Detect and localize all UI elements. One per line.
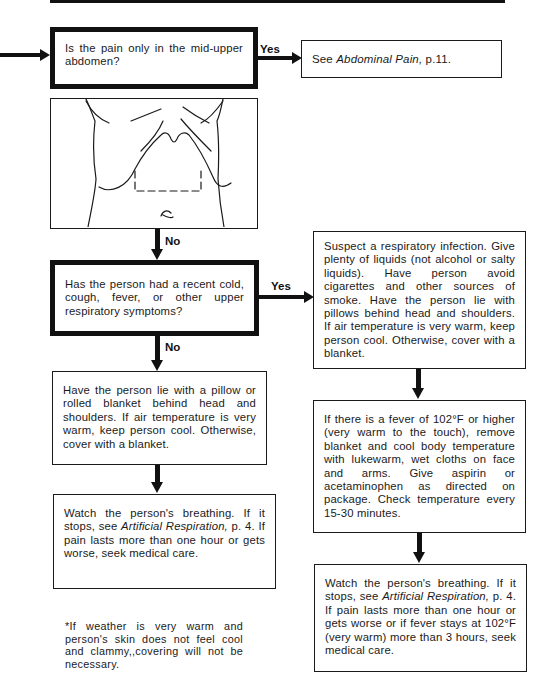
yes-arrow-1-line <box>258 56 294 60</box>
question-2-text: Has the person had a recent cold, cough,… <box>65 278 244 318</box>
yes-result-1-box: See Abdominal Pain, p.11. <box>301 40 502 78</box>
footnote: *If weather is very warm and person's sk… <box>65 620 243 670</box>
abdomen-illustration-box <box>50 98 258 229</box>
right-arrow-2-line <box>417 533 422 553</box>
question-1-box: Is the pain only in the mid-upper abdome… <box>50 27 258 89</box>
lie-down-pillow-text: Have the person lie with a pillow or rol… <box>63 384 256 451</box>
watch-breathing-text: Watch the person's breathing. If it stop… <box>64 507 265 561</box>
yes-result-1-prefix: See <box>312 53 336 65</box>
abdominal-pain-reference: Abdominal Pain, <box>336 53 422 65</box>
no-label-1: No <box>165 235 180 247</box>
yes-result-1-suffix: p.11. <box>422 53 451 65</box>
right-arrow-1-line <box>416 369 421 389</box>
respiratory-infection-text: Suspect a respiratory infection. Give pl… <box>324 240 515 361</box>
no-arrow-1-head-icon <box>151 249 163 260</box>
yes-arrow-2-line <box>259 295 306 299</box>
artificial-respiration-reference-1: Artificial Respiration, <box>121 520 228 532</box>
no-arrow-1-line <box>155 229 160 251</box>
artificial-respiration-reference-2: Artificial Respiration, <box>382 590 489 602</box>
left-arrow-1-head-icon <box>151 482 163 493</box>
yes-label-2: Yes <box>271 280 291 292</box>
lie-down-pillow-box: Have the person lie with a pillow or rol… <box>52 371 267 465</box>
fever-instructions-text: If there is a fever of 102°F or higher (… <box>324 413 515 520</box>
no-arrow-2-head-icon <box>151 360 163 371</box>
respiratory-infection-box: Suspect a respiratory infection. Give pl… <box>313 231 526 369</box>
watch-breathing-fever-box: Watch the person's breathing. If it stop… <box>314 564 527 672</box>
abdomen-outline-icon <box>51 99 256 227</box>
right-arrow-1-head-icon <box>412 388 424 399</box>
question-1-text: Is the pain only in the mid-upper abdome… <box>65 42 243 69</box>
entry-arrow-head-icon <box>40 49 50 61</box>
top-rule <box>50 0 505 3</box>
no-arrow-2-line <box>155 336 160 361</box>
question-2-box: Has the person had a recent cold, cough,… <box>50 260 259 336</box>
watch-breathing-box: Watch the person's breathing. If it stop… <box>53 494 276 589</box>
entry-arrow-line <box>0 53 42 57</box>
watch-breathing-fever-text: Watch the person's breathing. If it stop… <box>325 577 516 657</box>
no-label-2: No <box>165 341 180 353</box>
fever-instructions-box: If there is a fever of 102°F or higher (… <box>313 400 526 533</box>
yes-label-1: Yes <box>260 43 280 55</box>
right-arrow-2-head-icon <box>413 552 425 563</box>
yes-result-1-text: See Abdominal Pain, p.11. <box>312 53 501 66</box>
left-arrow-1-line <box>155 465 160 483</box>
